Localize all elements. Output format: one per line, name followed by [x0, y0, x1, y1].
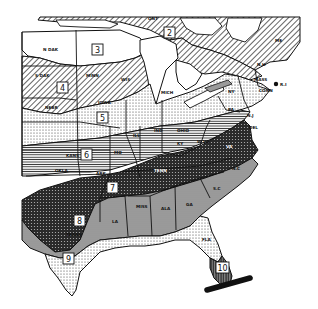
- zone-8-label: 8: [77, 217, 82, 226]
- state-label: KY: [177, 141, 184, 146]
- state-label: MICH: [161, 90, 174, 95]
- zone-10-label: 10: [217, 264, 227, 273]
- zone-map: 2 3 4 5 6 7 8 9 10 N DAK S DAK MINN WIS …: [0, 0, 318, 309]
- state-label: ALA: [161, 206, 171, 211]
- state-label: DEL: [249, 125, 258, 130]
- state-label: CONN: [259, 88, 273, 93]
- zone-9-label: 9: [66, 255, 71, 264]
- state-label: MISS: [136, 204, 148, 209]
- state-label: IND: [154, 128, 163, 133]
- state-label: N.C: [232, 166, 240, 171]
- state-label: MO: [114, 150, 122, 155]
- state-label: NEBR: [45, 105, 59, 110]
- state-label: MINN: [86, 73, 99, 78]
- state-label: PA: [228, 107, 235, 112]
- state-label: GA: [186, 202, 193, 207]
- zone-3-label: 3: [95, 46, 100, 55]
- state-label: LA: [112, 219, 119, 224]
- state-label: S.C: [213, 186, 221, 191]
- zone-4-label: 4: [60, 84, 65, 93]
- state-label: ME: [275, 38, 282, 43]
- state-label: TEXAS: [66, 232, 81, 237]
- ri-marker: [274, 82, 278, 86]
- state-label: KANS: [66, 153, 79, 158]
- state-label: VA: [226, 144, 233, 149]
- state-label: OKLA: [55, 168, 68, 173]
- state-label: N.J: [247, 113, 254, 118]
- zone-6-label: 6: [84, 151, 89, 160]
- state-label: ONT: [148, 16, 158, 21]
- state-label: ILL: [133, 133, 140, 138]
- state-label: WIS: [121, 77, 130, 82]
- state-label: MASS: [254, 77, 267, 82]
- zone-5-label: 5: [100, 114, 105, 123]
- state-label: ARK: [96, 171, 106, 176]
- state-label: N.H: [257, 62, 266, 67]
- state-label: S DAK: [35, 73, 50, 78]
- zone-2-label: 2: [167, 29, 172, 38]
- state-label: OHIO: [177, 128, 190, 133]
- zone-7-label: 7: [110, 184, 115, 193]
- state-label: R.I: [280, 82, 287, 87]
- state-label: W VA: [197, 139, 210, 144]
- state-label: FLA: [202, 237, 212, 242]
- state-label: IOWA: [98, 100, 112, 105]
- state-label: N DAK: [43, 47, 59, 52]
- state-label: NY: [228, 89, 236, 94]
- state-label: TENN: [154, 168, 167, 173]
